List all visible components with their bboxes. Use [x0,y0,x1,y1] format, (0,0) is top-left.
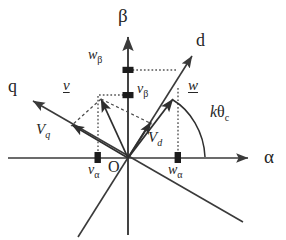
v-beta-label: vβ [137,82,148,99]
vector-v-label: v [63,78,70,93]
d-axis-label: d [196,31,205,49]
construction-v-to-d-axis [101,99,152,124]
vector-diagram-canvas [0,0,286,240]
vector-diagram-figure: α β d q O v w wβ vβ vα wα Vq Vd kθc [0,0,286,240]
w-beta-label: wβ [88,48,102,65]
Vq-label: Vq [36,122,50,140]
beta-axis-label: β [118,6,128,25]
alpha-axis-label: α [264,147,274,166]
vector-w-label: w [188,78,198,93]
v-alpha-label: vα [88,163,99,180]
origin-label: O [108,159,120,175]
q-axis-label: q [8,77,17,95]
projection-line-w-beta [123,67,177,73]
projection-line-v-beta [99,92,134,98]
construction-v-to-q-axis [71,99,101,126]
Vd-label: Vd [148,130,162,148]
projection-line-w-alpha [175,88,181,163]
angle-label: kθc [210,104,229,123]
projection-line-v-alpha [95,96,101,163]
w-alpha-label: wα [168,163,183,180]
